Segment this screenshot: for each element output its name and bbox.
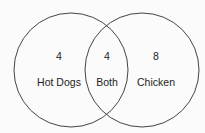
chicken-circle xyxy=(85,13,199,127)
venn-diagram: 4 Hot Dogs 4 Both 8 Chicken xyxy=(0,0,205,133)
hot-dogs-label: Hot Dogs xyxy=(37,76,81,88)
hot-dogs-count: 4 xyxy=(56,50,62,62)
chicken-label: Chicken xyxy=(137,76,175,88)
both-label: Both xyxy=(96,76,118,88)
hot-dogs-circle xyxy=(14,13,128,127)
both-count: 4 xyxy=(104,50,110,62)
chicken-count: 8 xyxy=(153,50,159,62)
